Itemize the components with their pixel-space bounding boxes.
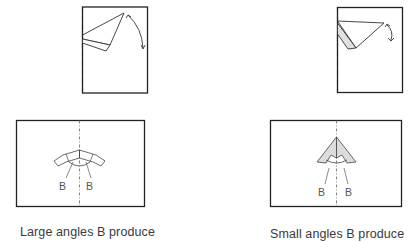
rotation-arrow: [387, 25, 392, 40]
large-angle-top-view: [83, 7, 148, 93]
small-angle-bottom-view: B B: [271, 121, 402, 207]
angle-label-right: B: [345, 186, 352, 198]
caption-large-angles: Large angles B produce: [20, 225, 155, 239]
caption-small-angles: Small angles B produce: [270, 227, 404, 241]
large-angle-bottom-view: B B: [17, 121, 145, 207]
small-angle-top-view: [338, 8, 403, 93]
angle-label-right: B: [86, 180, 93, 192]
angle-label-left: B: [318, 186, 325, 198]
rotation-arrow: [128, 15, 143, 48]
folding-diagram: B B B B: [0, 0, 415, 243]
angle-label-left: B: [59, 180, 66, 192]
